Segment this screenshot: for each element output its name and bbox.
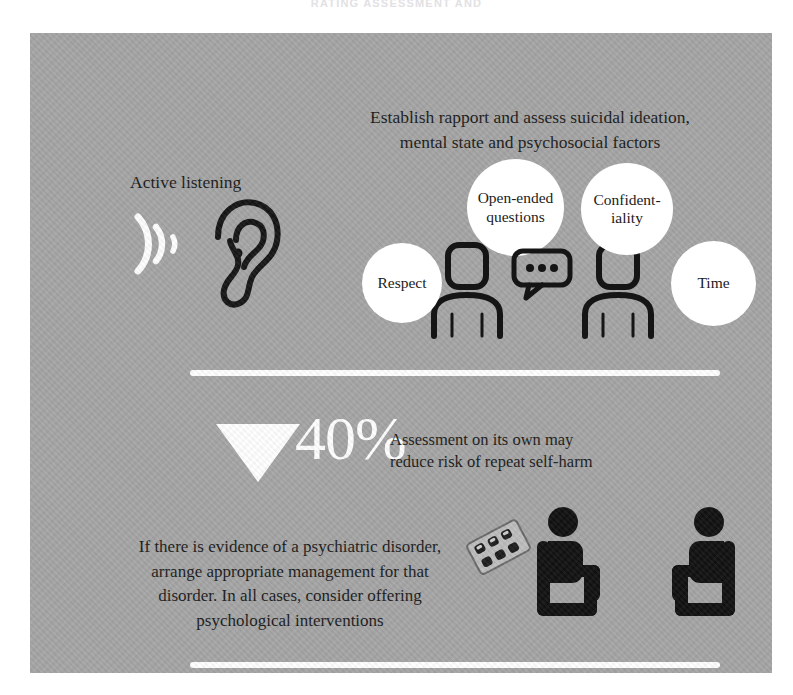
bubble-respect[interactable]: Respect [362,243,442,323]
blister-pack-icon [462,511,536,585]
down-triangle-icon [216,424,300,482]
assessment-heading-line-1: Establish rapport and assess suicidal id… [330,105,730,130]
bubble-confidentiality[interactable]: Confident-iality [581,163,673,255]
sound-waves-icon [132,209,190,279]
management-text-line-1: If there is evidence of a psychiatric di… [110,535,470,560]
bubble-respect-label: Respect [377,274,426,292]
seated-person-icon-left [530,505,622,623]
stat-description-line-1: Assessment on its own may [390,429,690,451]
bubble-time-label: Time [697,274,729,292]
assessment-heading-line-2: mental state and psychosocial factors [330,130,730,155]
management-text-line-3: disorder. In all cases, consider offerin… [110,584,470,609]
bubble-open-ended-questions-label: Open-ended questions [467,189,564,226]
divider-top [190,370,720,376]
bubble-time[interactable]: Time [671,241,756,326]
ear-icon [198,193,284,311]
management-text-line-2: arrange appropriate management for that [110,560,470,585]
active-listening-label: Active listening [130,172,370,193]
divider-bottom [190,662,720,668]
speech-bubble-icon [511,248,573,300]
stat-description-line-2: reduce risk of repeat self-harm [390,451,690,473]
infographic-panel: Establish rapport and assess suicidal id… [30,33,772,673]
management-text: If there is evidence of a psychiatric di… [110,535,470,634]
seated-person-icon-right [650,505,742,623]
bubble-confidentiality-label: Confident-iality [581,191,673,228]
running-header: RATING ASSESSMENT AND [0,0,793,9]
assessment-heading: Establish rapport and assess suicidal id… [330,105,730,156]
stat-description: Assessment on its own may reduce risk of… [390,429,690,474]
management-text-line-4: psychological interventions [110,609,470,634]
bubble-open-ended-questions[interactable]: Open-ended questions [467,159,564,256]
